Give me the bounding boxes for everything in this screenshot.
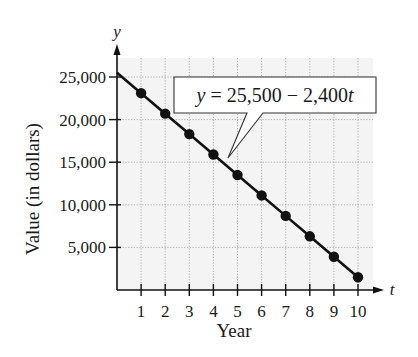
y-axis-arrow-icon	[114, 44, 121, 55]
y-tick-label: 15,000	[59, 153, 106, 172]
x-axis-arrow-icon	[373, 287, 384, 294]
x-tick-label: 8	[306, 302, 315, 321]
equation-label: y = 25,500 − 2,400t	[194, 84, 353, 107]
data-point-marker	[160, 108, 170, 118]
y-axis-title: Value (in dollars)	[22, 123, 44, 255]
data-point-marker	[281, 211, 291, 221]
x-tick-label: 7	[281, 302, 290, 321]
y-tick-label: 20,000	[59, 111, 106, 130]
data-point-marker	[353, 272, 363, 282]
data-point-marker	[232, 170, 242, 180]
data-point-marker	[329, 252, 339, 262]
data-point-marker	[305, 231, 315, 241]
line-chart: 12345678910 5,00010,00015,00020,00025,00…	[0, 0, 418, 357]
x-tick-label: 2	[161, 302, 170, 321]
y-tick-label: 25,000	[59, 68, 106, 87]
y-ticks: 5,00010,00015,00020,00025,000	[59, 68, 121, 257]
data-point-marker	[136, 88, 146, 98]
x-tick-label: 3	[185, 302, 194, 321]
x-tick-label: 6	[257, 302, 266, 321]
x-tick-label: 10	[350, 302, 367, 321]
data-point-marker	[208, 149, 218, 159]
x-axis-title: Year	[216, 320, 252, 341]
data-point-marker	[256, 190, 266, 200]
x-tick-label: 4	[209, 302, 218, 321]
x-tick-label: 9	[330, 302, 339, 321]
x-tick-label: 5	[233, 302, 242, 321]
x-tick-label: 1	[137, 302, 146, 321]
y-axis-variable: y	[111, 22, 121, 41]
y-tick-label: 5,000	[68, 238, 106, 257]
x-axis-variable: t	[390, 280, 396, 299]
y-tick-label: 10,000	[59, 196, 106, 215]
data-point-marker	[184, 129, 194, 139]
